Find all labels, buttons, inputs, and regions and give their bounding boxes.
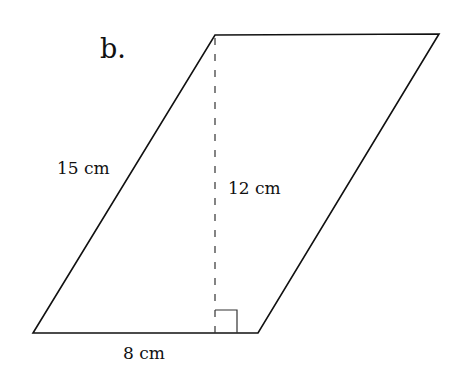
base-label: 8 cm [123, 343, 165, 363]
right-angle-marker [215, 310, 237, 333]
diagram-canvas: b. 15 cm 12 cm 8 cm [0, 0, 460, 386]
part-label: b. [100, 33, 126, 64]
slant-side-label: 15 cm [57, 158, 110, 178]
height-label: 12 cm [228, 178, 281, 198]
